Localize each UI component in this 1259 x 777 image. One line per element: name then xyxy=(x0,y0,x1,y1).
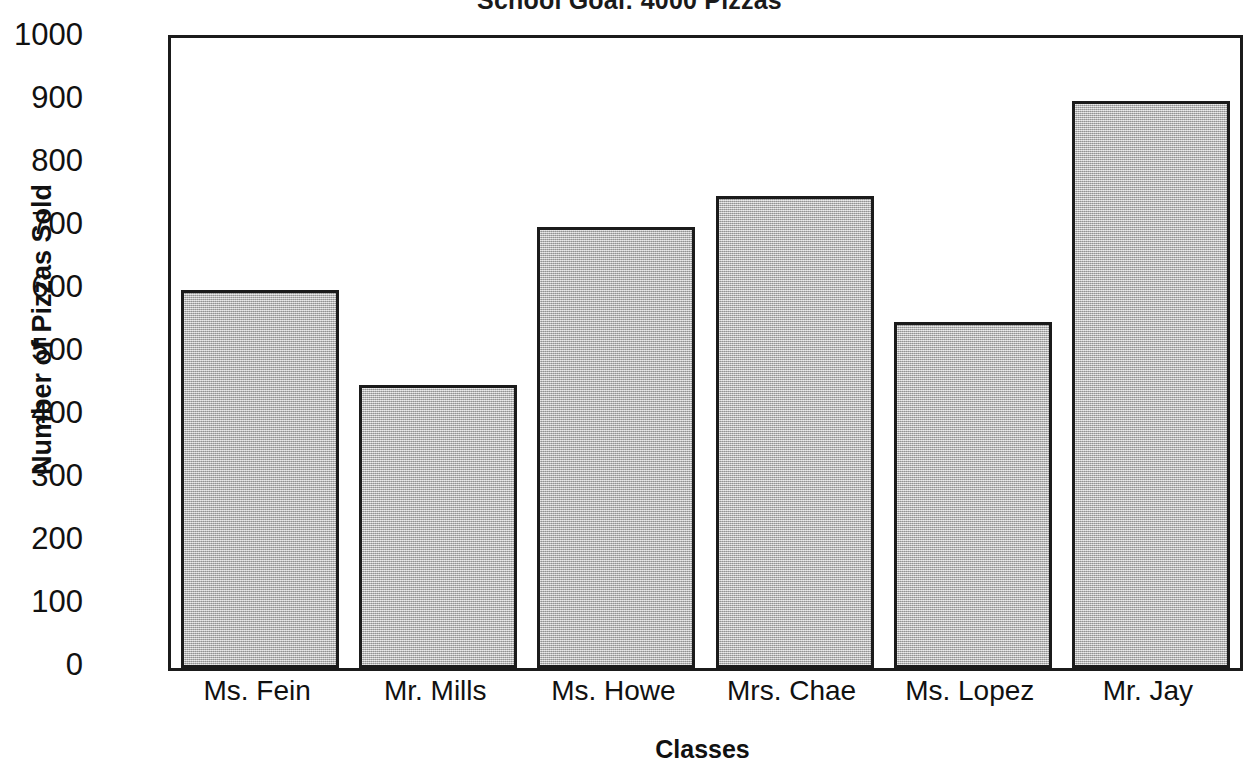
bar xyxy=(716,196,874,669)
x-axis-title: Classes xyxy=(168,735,1237,764)
y-axis-tick-label: 500 xyxy=(0,334,83,365)
y-axis-tick-label: 300 xyxy=(0,460,83,491)
y-axis-tick-label: 700 xyxy=(0,208,83,239)
y-axis-tick-label: 900 xyxy=(0,82,83,113)
y-axis-tick-label: 200 xyxy=(0,523,83,554)
y-axis-tick-label: 800 xyxy=(0,145,83,176)
x-axis-tick-label: Ms. Fein xyxy=(168,675,346,707)
y-axis-tick-label: 100 xyxy=(0,586,83,617)
x-axis-tick-label: Ms. Lopez xyxy=(881,675,1059,707)
bar xyxy=(181,290,339,668)
x-axis-tick-label: Mr. Jay xyxy=(1059,675,1237,707)
bars-container xyxy=(171,38,1240,668)
x-axis-tick-label: Ms. Howe xyxy=(524,675,702,707)
bar xyxy=(894,322,1052,669)
y-axis-tick-label: 600 xyxy=(0,271,83,302)
y-axis-tick-label: 1000 xyxy=(0,19,83,50)
bar xyxy=(359,385,517,669)
x-axis-tick-label: Mr. Mills xyxy=(346,675,524,707)
y-axis-tick-label: 0 xyxy=(0,649,83,680)
bar-chart-figure: School Goal: 4000 Pizzas Number of Pizza… xyxy=(0,0,1259,777)
y-axis-tick-label: 400 xyxy=(0,397,83,428)
chart-title: School Goal: 4000 Pizzas xyxy=(0,0,1259,15)
x-axis-tick-label: Mrs. Chae xyxy=(703,675,881,707)
plot-area xyxy=(168,35,1243,671)
bar xyxy=(1072,101,1230,668)
bar xyxy=(537,227,695,668)
